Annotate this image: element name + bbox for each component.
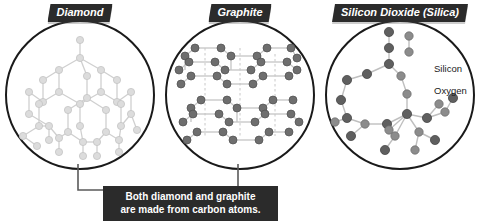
caption-line-2: are made from carbon atoms. bbox=[109, 203, 272, 216]
legend-label-oxygen: Oxygen bbox=[434, 85, 467, 96]
banner-graphite: Graphite bbox=[208, 4, 271, 22]
structures-figure: Diamond Diamond bbox=[0, 0, 481, 224]
legend-label-silicon: Silicon bbox=[434, 63, 462, 74]
panel-graphite: Graphite Graphite bbox=[160, 0, 320, 180]
caption-box: Both diamond and graphite are made from … bbox=[103, 186, 278, 221]
graphite-circle bbox=[163, 18, 317, 172]
panel-diamond: Diamond Diamond bbox=[0, 0, 160, 180]
banner-silica: Silicon Dioxide (Silica) bbox=[332, 4, 468, 22]
caption-line-1: Both diamond and graphite bbox=[109, 190, 272, 203]
diamond-circle bbox=[3, 18, 157, 172]
banner-diamond: Diamond bbox=[47, 4, 112, 22]
